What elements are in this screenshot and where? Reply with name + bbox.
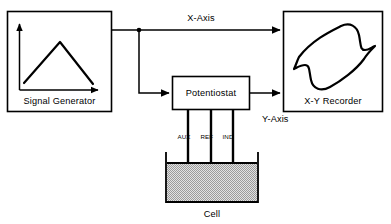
cv-instrumentation-diagram: Signal Generator Potentiostat X-Y Record… [0,0,391,224]
block-signal-generator[interactable]: Signal Generator [8,12,112,112]
electrode-label-ref: REF [201,133,214,140]
connection-signal-to-potentiostat [139,30,169,93]
signal-generator-label: Signal Generator [24,96,96,106]
cell-solution-fill [167,163,257,202]
connection-x-axis: X-Axis [112,13,281,32]
xy-recorder-label: X-Y Recorder [304,96,361,106]
cell-label: Cell [204,209,220,219]
y-axis-label: Y-Axis [262,114,289,124]
electrode-label-ind: IND [223,133,234,140]
block-xy-recorder[interactable]: X-Y Recorder [284,12,383,112]
x-axis-label: X-Axis [187,13,215,23]
signal-to-potentiostat-wire [139,30,169,93]
electrode-label-aux: AUX [178,133,191,140]
potentiostat-label: Potentiostat [186,88,237,98]
diagram-canvas: Signal Generator Potentiostat X-Y Record… [0,0,391,224]
block-potentiostat[interactable]: Potentiostat [173,77,250,110]
